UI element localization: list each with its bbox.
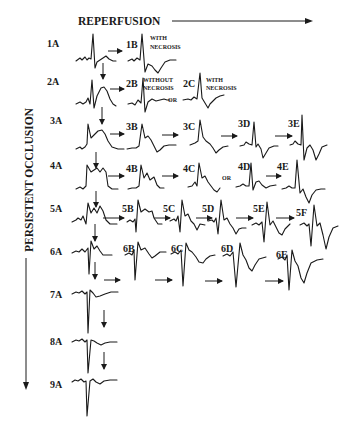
label-8A: 8A [50, 336, 63, 347]
ecg-2A [76, 80, 116, 108]
label-2A: 2A [47, 76, 60, 87]
label-3A: 3A [50, 115, 63, 126]
label-5E: 5E [253, 203, 265, 214]
label-9A: 9A [50, 379, 63, 390]
label-1B: 1B [126, 39, 138, 50]
ecg-3A [76, 124, 124, 149]
ecg-9A [72, 379, 117, 416]
label-4C: 4C [183, 163, 195, 174]
label-5A: 5A [50, 203, 63, 214]
note-2C-with: WITH [206, 77, 223, 83]
label-1A: 1A [47, 38, 60, 49]
label-2B: 2B [126, 78, 138, 89]
note-2C-necrosis: NECROSIS [206, 85, 237, 91]
ecg-8A [72, 339, 117, 373]
note-1B-necrosis: NECROSIS [150, 44, 181, 50]
ecg-6A [72, 241, 112, 274]
label-7A: 7A [50, 289, 63, 300]
or-row-2: OR [168, 97, 178, 103]
label-4D: 4D [238, 161, 250, 172]
label-3B: 3B [126, 121, 138, 132]
reperfusion-arrow [172, 18, 313, 24]
label-5C: 5C [163, 203, 175, 214]
note-2B-necrosis: NECROSIS [143, 85, 174, 91]
ecg-4A [76, 165, 118, 189]
or-row-4: OR [222, 175, 232, 181]
reperfusion-label: REPERFUSION [78, 15, 161, 27]
ecg-5C [170, 200, 205, 232]
label-3C: 3C [183, 121, 195, 132]
label-5F: 5F [296, 207, 307, 218]
label-4B: 4B [126, 163, 138, 174]
label-6A: 6A [50, 246, 63, 257]
ecg-evolution-diagram: REPERFUSION PERSISTENT OCCLUSION 1A 2A 3… [0, 0, 348, 433]
persistent-occlusion-label: PERSISTENT OCCLUSION [23, 107, 35, 252]
label-3D: 3D [238, 118, 250, 129]
label-5D: 5D [202, 203, 214, 214]
ecg-5A [72, 203, 117, 224]
label-5B: 5B [122, 203, 134, 214]
persistent-occlusion-arrow [23, 258, 29, 390]
ecg-7A [72, 290, 118, 333]
note-2B-without: WITHOUT [143, 77, 173, 83]
label-2C: 2C [183, 78, 195, 89]
label-3E: 3E [288, 118, 300, 129]
label-4E: 4E [277, 161, 289, 172]
note-1B-with: WITH [150, 35, 167, 41]
label-4A: 4A [50, 160, 63, 171]
label-6D: 6D [221, 243, 233, 254]
